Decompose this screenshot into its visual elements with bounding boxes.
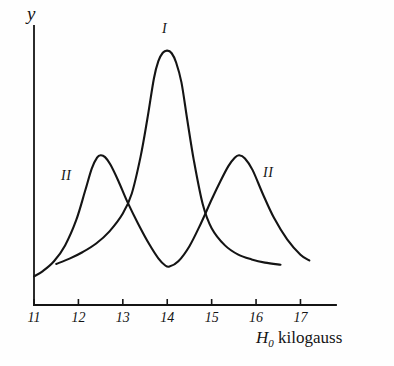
curve-I (56, 51, 280, 265)
x-axis-tick-label: 11 (28, 311, 41, 325)
x-axis-caption-subscript: 0 (268, 337, 274, 349)
x-axis-tick-label: 12 (71, 311, 85, 325)
chart-canvas (0, 0, 394, 366)
x-axis-tick-label: 15 (205, 311, 219, 325)
figure-container: y I II II 11121314151617 H0 kilogauss (0, 0, 394, 366)
curve-label-II-left: II (61, 169, 71, 183)
x-axis-tick-label: 16 (249, 311, 263, 325)
curve-label-II-right: II (263, 166, 273, 180)
y-axis-title: y (27, 4, 35, 23)
curve-label-I: I (162, 22, 167, 36)
x-axis-caption-unit: kilogauss (278, 328, 342, 347)
axis-lines (34, 26, 336, 305)
x-axis-caption: H0 kilogauss (256, 329, 342, 349)
x-axis-tick-label: 14 (160, 311, 174, 325)
curve-group (34, 51, 309, 277)
x-axis-tick-label: 13 (116, 311, 130, 325)
x-axis-caption-symbol: H (256, 328, 268, 347)
x-axis-tick-label: 17 (293, 311, 307, 325)
